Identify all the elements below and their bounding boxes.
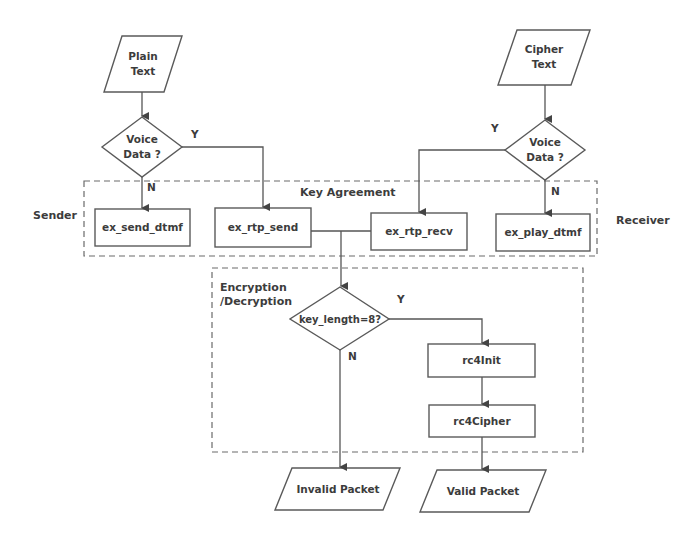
left-no-label: N xyxy=(147,181,156,193)
encryption-title: Encryption /Decryption xyxy=(220,281,292,309)
sender-label: Sender xyxy=(33,209,77,222)
right-no-label: N xyxy=(551,185,560,197)
rc4cipher-label: rc4Cipher xyxy=(429,405,535,437)
arrow-voice-yes-rtp-recv xyxy=(419,150,505,212)
flowchart-canvas xyxy=(0,0,692,539)
arrow-key-yes-rc4init xyxy=(389,319,482,343)
voice-right-label: Voice Data ? xyxy=(513,134,577,166)
valid-packet-label: Valid Packet xyxy=(428,470,538,512)
arrow-voice-yes-rtp-send xyxy=(182,147,263,207)
rc4init-label: rc4Init xyxy=(428,344,535,377)
invalid-packet-label: Invalid Packet xyxy=(283,468,393,510)
voice-left-label: Voice Data ? xyxy=(110,131,174,163)
plain-text-label: Plain Text xyxy=(110,44,176,84)
receiver-label: Receiver xyxy=(616,214,670,227)
play-dtmf-label: ex_play_dtmf xyxy=(496,214,590,251)
left-yes-label: Y xyxy=(191,128,199,140)
key-no-label: N xyxy=(348,350,357,362)
key-length-label: key_length=8? xyxy=(292,311,388,327)
rtp-send-label: ex_rtp_send xyxy=(215,208,311,247)
rtp-recv-label: ex_rtp_recv xyxy=(371,213,467,250)
right-yes-label: Y xyxy=(491,122,499,134)
key-yes-label: Y xyxy=(397,293,405,305)
key-agreement-title: Key Agreement xyxy=(300,186,396,199)
cipher-text-label: Cipher Text xyxy=(508,37,580,77)
send-dtmf-label: ex_send_dtmf xyxy=(95,209,190,246)
